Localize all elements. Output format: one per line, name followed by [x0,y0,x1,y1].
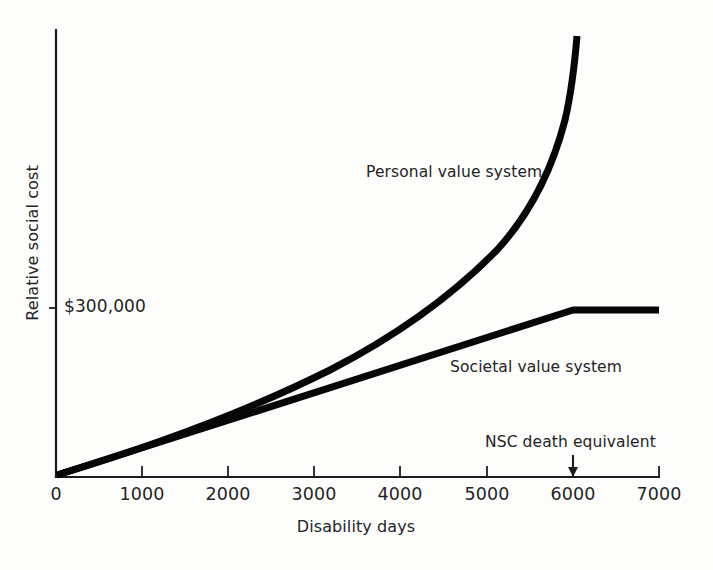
x-tick-label-4000: 4000 [378,484,423,504]
x-tick-label-1000: 1000 [120,484,165,504]
chart-plot-area [0,0,713,570]
chart-figure: Relative social cost $300,000 0 1000 200… [0,0,713,570]
annotation-label-nsc-death-equivalent: NSC death equivalent [485,433,656,451]
series-line-personal-value-system [57,36,577,475]
x-tick-label-5000: 5000 [465,484,510,504]
x-tick-label-6000: 6000 [551,484,596,504]
x-axis-title: Disability days [297,517,416,536]
x-tick-label-3000: 3000 [292,484,337,504]
series-label-societal-value-system: Societal value system [450,358,622,376]
y-axis-value-label: $300,000 [64,296,146,316]
y-axis-title: Relative social cost [23,165,42,321]
series-label-personal-value-system: Personal value system [366,163,542,181]
x-tick-label-2000: 2000 [206,484,251,504]
x-tick-label-7000: 7000 [637,484,682,504]
x-tick-label-0: 0 [50,484,61,504]
nsc-death-equivalent-arrow [568,455,578,477]
